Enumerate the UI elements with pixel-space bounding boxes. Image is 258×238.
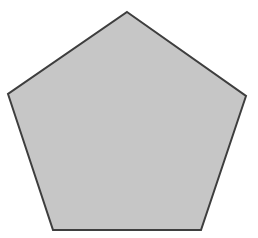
pentagon-diagram: [0, 0, 258, 238]
diagram-canvas: [0, 0, 258, 238]
pentagon-shape: [8, 12, 246, 230]
